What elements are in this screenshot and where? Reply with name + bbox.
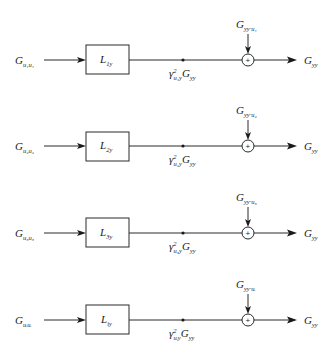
input-label: Gu₂u₂ — [15, 140, 35, 154]
input-label: Guᵢuᵢ — [15, 314, 32, 328]
path-row-3: Gu₃u₃ L3y γ2u₃yGyy Gyy·u₃ + Gyy — [15, 191, 318, 254]
output-label: Gyy — [304, 227, 318, 241]
block-diagram: Gu₁u₁ L1y γ2u₁yGyy Gyy·u₁ + Gyy Gu₂u₂ L2… — [0, 0, 333, 358]
coherent-output-label: γ2u₃yGyy — [169, 240, 196, 254]
node-dot-icon — [181, 231, 184, 234]
path-row-1: Gu₁u₁ L1y γ2u₁yGyy Gyy·u₁ + Gyy — [15, 18, 318, 81]
node-dot-icon — [181, 318, 184, 321]
output-label: Gyy — [304, 314, 318, 328]
noise-label: Gyy·uᵢ — [236, 278, 256, 292]
plus-icon: + — [246, 229, 251, 238]
coherent-output-label: γ2u₁yGyy — [169, 67, 196, 81]
node-dot-icon — [181, 144, 184, 147]
plus-icon: + — [246, 56, 251, 65]
path-row-4: Guᵢuᵢ Liy γ2uᵢyGyy Gyy·uᵢ + Gyy — [15, 278, 318, 341]
plus-icon: + — [246, 316, 251, 325]
noise-label: Gyy·u₂ — [236, 104, 258, 118]
output-label: Gyy — [304, 140, 318, 154]
input-label: Gu₃u₃ — [15, 227, 34, 241]
coherent-output-label: γ2uᵢyGyy — [169, 327, 195, 341]
output-label: Gyy — [304, 54, 318, 68]
noise-label: Gyy·u₁ — [236, 18, 257, 32]
plus-icon: + — [246, 142, 251, 151]
path-row-2: Gu₂u₂ L2y γ2u₂yGyy Gyy·u₂ + Gyy — [15, 104, 318, 167]
input-label: Gu₁u₁ — [15, 54, 34, 68]
noise-label: Gyy·u₃ — [236, 191, 257, 205]
node-dot-icon — [181, 58, 184, 61]
coherent-output-label: γ2u₂yGyy — [169, 153, 196, 167]
